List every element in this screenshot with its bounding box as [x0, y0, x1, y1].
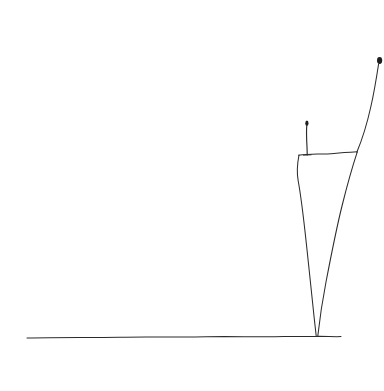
- standing-figure-head: [305, 121, 308, 126]
- standing-figure-body: [306, 125, 307, 155]
- sketch-canvas: [0, 0, 384, 391]
- paper-background: [0, 0, 384, 391]
- rising-line-tip-icon: [377, 57, 382, 64]
- sketch-drawing: [0, 0, 384, 391]
